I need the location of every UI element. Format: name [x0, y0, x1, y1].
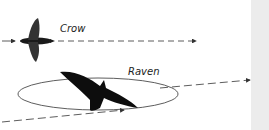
- raven-icon: [60, 72, 138, 111]
- crow-icon: [20, 18, 55, 62]
- raven-incoming-arrow: [2, 110, 124, 122]
- flight-diagram: [0, 0, 269, 130]
- crow-label: Crow: [60, 23, 85, 34]
- raven-exit-arrow: [160, 80, 250, 88]
- raven-label: Raven: [128, 66, 159, 77]
